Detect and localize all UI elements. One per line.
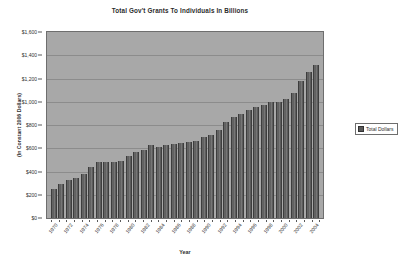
x-axis-tick	[273, 220, 274, 222]
x-axis-tick-label: 2004	[308, 222, 320, 234]
bar	[193, 141, 199, 218]
x-axis-tick	[281, 220, 282, 222]
bar	[103, 162, 109, 218]
bar	[133, 152, 139, 218]
y-axis: $1,600$1,400$1,200$1,000$800$600$400$200…	[0, 31, 42, 219]
bar	[223, 122, 229, 218]
x-axis-tick	[97, 220, 98, 222]
y-axis-tick-label: $800	[26, 122, 37, 128]
x-axis-tick	[82, 220, 83, 222]
x-axis-tick-label: 1990	[200, 222, 212, 234]
x-axis-tick-label: 1998	[262, 222, 274, 234]
x-axis-tick-label: 1992	[216, 222, 228, 234]
bar	[96, 162, 102, 218]
bar	[231, 117, 237, 218]
y-axis-tick-label: $1,400	[22, 52, 37, 58]
x-axis-tick	[258, 220, 259, 222]
x-axis-tick	[304, 220, 305, 222]
x-axis-tick-label: 1986	[170, 222, 182, 234]
y-axis-tick	[38, 148, 42, 149]
y-axis-tick	[38, 194, 42, 195]
x-axis-tick	[204, 220, 205, 222]
x-axis-tick	[250, 220, 251, 222]
y-axis-tick	[38, 32, 42, 33]
x-axis-tick	[181, 220, 182, 222]
bar	[186, 142, 192, 218]
bar	[126, 156, 132, 218]
bar	[291, 93, 297, 218]
bar	[306, 72, 312, 218]
y-axis-tick-label: $600	[26, 145, 37, 151]
bar	[238, 114, 244, 218]
bar	[148, 145, 154, 218]
bar	[58, 184, 64, 218]
bar	[111, 162, 117, 218]
bar	[298, 81, 304, 218]
bar-series-total-dollars	[47, 32, 323, 218]
bar	[246, 110, 252, 218]
x-axis-tick-label: 1970	[47, 222, 59, 234]
x-axis-tick-label: 2000	[277, 222, 289, 234]
y-axis-tick	[38, 125, 42, 126]
bar	[156, 147, 162, 218]
bar	[253, 107, 259, 218]
bar	[171, 144, 177, 218]
x-axis-tick	[197, 220, 198, 222]
x-axis-tick	[143, 220, 144, 222]
x-axis-tick	[289, 220, 290, 222]
x-axis-title: Year	[46, 249, 324, 255]
bar	[313, 65, 319, 218]
bar	[201, 137, 207, 218]
legend-swatch-icon	[358, 126, 364, 132]
x-axis-tick	[243, 220, 244, 222]
x-axis-tick	[227, 220, 228, 222]
chart-title: Total Gov't Grants To Individuals In Bil…	[0, 7, 360, 14]
y-axis-tick	[38, 78, 42, 79]
bar	[73, 178, 79, 218]
x-axis-tick	[151, 220, 152, 222]
bar	[178, 143, 184, 218]
bar	[216, 130, 222, 218]
bar	[66, 180, 72, 218]
x-axis-tick-label: 1976	[93, 222, 105, 234]
x-axis-tick-label: 1972	[62, 222, 74, 234]
x-axis-tick-label: 1988	[185, 222, 197, 234]
x-axis-tick	[66, 220, 67, 222]
x-axis-tick	[166, 220, 167, 222]
plot-area	[46, 31, 324, 219]
x-axis-tick	[266, 220, 267, 222]
bar	[208, 135, 214, 218]
x-axis-tick	[59, 220, 60, 222]
chart-legend: Total Dollars	[355, 123, 398, 135]
x-axis-tick	[235, 220, 236, 222]
y-axis-tick-label: $0	[31, 215, 37, 221]
x-axis-tick	[120, 220, 121, 222]
bar	[88, 167, 94, 218]
x-axis-tick	[89, 220, 90, 222]
bar	[118, 161, 124, 218]
x-axis-tick	[312, 220, 313, 222]
x-axis-tick	[220, 220, 221, 222]
y-axis-tick-label: $1,200	[22, 76, 37, 82]
y-axis-tick	[38, 171, 42, 172]
x-axis-tick	[74, 220, 75, 222]
x-axis-tick	[319, 220, 320, 222]
y-axis-tick-label: $400	[26, 169, 37, 175]
bar	[276, 102, 282, 218]
bar	[261, 105, 267, 218]
x-axis-tick	[135, 220, 136, 222]
y-axis-tick-label: $1,600	[22, 29, 37, 35]
x-axis-tick	[212, 220, 213, 222]
bar-chart: Total Gov't Grants To Individuals In Bil…	[0, 0, 403, 269]
x-axis: 1970197219741976197819801982198419861988…	[46, 220, 324, 248]
x-axis-tick	[189, 220, 190, 222]
x-axis-tick	[51, 220, 52, 222]
x-axis-tick-label: 1996	[246, 222, 258, 234]
y-axis-tick-label: $1,000	[22, 99, 37, 105]
bar	[81, 174, 87, 218]
x-axis-tick	[158, 220, 159, 222]
bar	[51, 189, 57, 218]
y-axis-tick	[38, 218, 42, 219]
x-axis-tick	[112, 220, 113, 222]
x-axis-tick-label: 1980	[124, 222, 136, 234]
